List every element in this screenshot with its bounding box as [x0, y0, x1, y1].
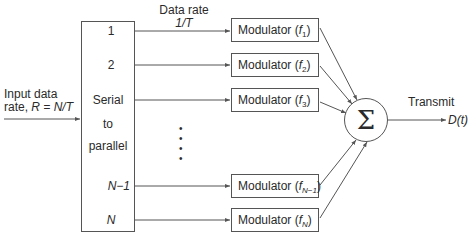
- input-rate-label: Input data rate, R = N/T: [4, 88, 73, 114]
- sp-label-serial: Serial: [81, 93, 135, 107]
- modulator-f3: Modulator (f3): [231, 88, 319, 112]
- sigma-icon: Σ: [357, 105, 375, 135]
- transmit-label: Transmit: [408, 96, 454, 109]
- sp-output-1: 1: [96, 24, 126, 38]
- modulator-close: ): [308, 213, 312, 227]
- sp-label-parallel: parallel: [81, 139, 135, 153]
- data-rate-line2: 1/T: [154, 17, 214, 30]
- input-rate-formula: R = N/T: [31, 100, 73, 114]
- modulator-close: ): [307, 93, 311, 107]
- input-rate-line2: rate, R = N/T: [4, 101, 73, 114]
- input-rate-prefix: rate,: [4, 100, 31, 114]
- dot: •: [179, 154, 183, 164]
- sp-label-to: to: [81, 117, 135, 131]
- modulator-fn: Modulator (fN): [231, 208, 319, 232]
- summation-node: Σ: [344, 98, 388, 142]
- modulator-f1: Modulator (f1): [231, 18, 319, 42]
- modulator-close: ): [317, 179, 321, 193]
- modulator-f2: Modulator (f2): [231, 53, 319, 77]
- modulator-label: Modulator (: [238, 179, 299, 193]
- sp-output-2: 2: [96, 58, 126, 72]
- ellipsis-dots: • • • •: [179, 124, 183, 164]
- modulator-close: ): [307, 23, 311, 37]
- modulator-label: Modulator (: [238, 23, 299, 37]
- modulator-label: Modulator (: [238, 93, 299, 107]
- sp-output-n-minus-1: N−1: [100, 179, 130, 193]
- modulator-label: Modulator (: [238, 58, 299, 72]
- modulator-freq-sub: N−1: [302, 186, 317, 195]
- modulator-label: Modulator (: [238, 213, 299, 227]
- data-rate-label: Data rate 1/T: [154, 4, 214, 30]
- modulator-close: ): [307, 58, 311, 72]
- sp-output-n: N: [96, 213, 126, 227]
- output-signal-label: D(t): [448, 114, 468, 127]
- modulator-fn-minus-1: Modulator (fN−1): [231, 174, 319, 198]
